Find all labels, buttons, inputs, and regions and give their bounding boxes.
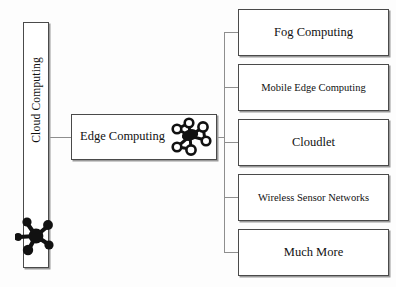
node-much-more[interactable]: Much More xyxy=(238,229,389,276)
connector-bus-to-wireless-sensor-networks xyxy=(224,197,239,198)
node-fog-computing-label: Fog Computing xyxy=(274,26,353,40)
node-edge-computing[interactable]: Edge Computing xyxy=(71,114,217,160)
connector-cloud-to-edge xyxy=(49,137,72,138)
network-nodes-icon xyxy=(15,213,57,257)
network-cluster-icon xyxy=(168,116,212,158)
connector-bus-to-cloudlet xyxy=(224,142,239,143)
connector-bus-to-much-more xyxy=(224,252,239,253)
connector-bus-to-fog-computing xyxy=(224,32,239,33)
node-mobile-edge-computing-label: Mobile Edge Computing xyxy=(261,82,365,94)
node-cloudlet[interactable]: Cloudlet xyxy=(238,119,389,166)
node-mobile-edge-computing[interactable]: Mobile Edge Computing xyxy=(238,64,389,111)
node-edge-computing-label: Edge Computing xyxy=(80,130,165,144)
node-much-more-label: Much More xyxy=(284,246,343,260)
node-wireless-sensor-networks-label: Wireless Sensor Networks xyxy=(258,192,369,204)
node-wireless-sensor-networks[interactable]: Wireless Sensor Networks xyxy=(238,174,389,221)
connector-bus-to-mobile-edge-computing xyxy=(224,87,239,88)
node-cloud-computing-label: Cloud Computing xyxy=(30,57,43,143)
node-cloud-computing[interactable]: Cloud Computing xyxy=(23,22,49,268)
node-cloudlet-label: Cloudlet xyxy=(292,136,335,150)
node-fog-computing[interactable]: Fog Computing xyxy=(238,9,389,56)
diagram-canvas: Cloud Computing xyxy=(0,0,396,287)
